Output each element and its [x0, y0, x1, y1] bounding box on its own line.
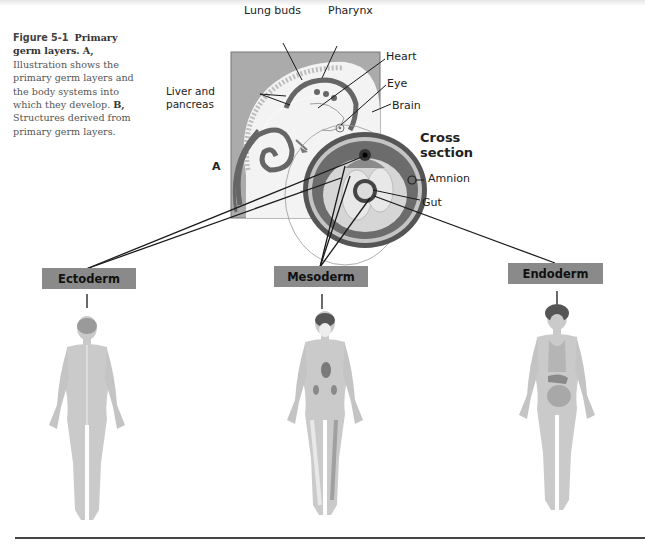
endoderm-figure — [519, 304, 595, 510]
germ-layer-ticks — [87, 291, 557, 309]
label-gut: Gut — [422, 196, 442, 209]
ectoderm-box: Ectoderm — [42, 268, 136, 289]
endoderm-box: Endoderm — [508, 263, 603, 284]
label-heart: Heart — [386, 50, 417, 63]
label-amnion: Amnion — [428, 172, 470, 185]
bottom-rule — [15, 537, 645, 539]
ectoderm-figure — [49, 316, 125, 520]
label-cross-section: Cross section — [420, 130, 473, 160]
mesoderm-box: Mesoderm — [274, 266, 368, 287]
label-brain: Brain — [392, 99, 421, 112]
label-liver-pancreas: Liver and pancreas — [166, 85, 215, 111]
label-eye: Eye — [387, 77, 407, 90]
label-lung-buds: Lung buds — [244, 4, 301, 17]
panel-label-a: A — [212, 160, 221, 173]
mesoderm-figure — [287, 311, 363, 515]
label-pharynx: Pharynx — [328, 4, 373, 17]
